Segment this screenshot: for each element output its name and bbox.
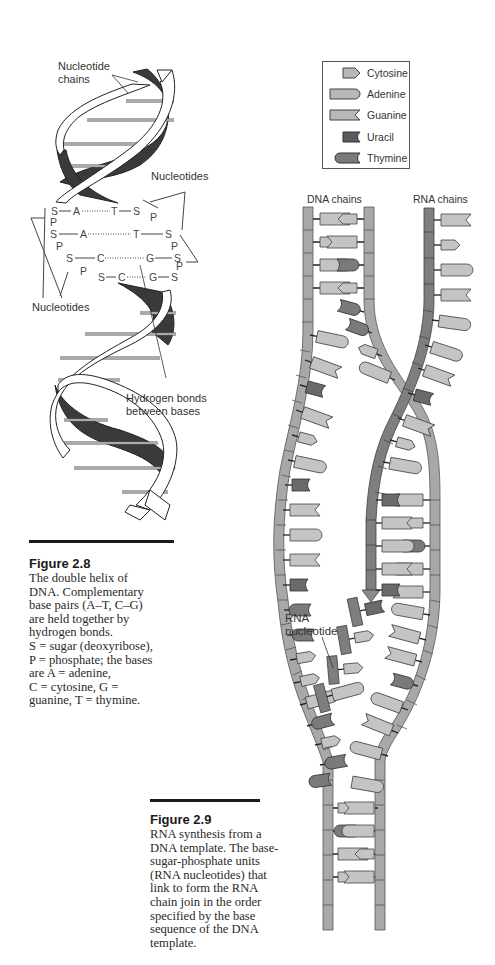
svg-text:S: S — [171, 271, 178, 283]
legend-item-guanine: Guanine — [323, 107, 409, 125]
svg-text:S: S — [165, 228, 172, 240]
rna-dna-hybrid — [376, 494, 414, 596]
uracil-icon — [323, 130, 363, 144]
label-nucleotides-left: Nucleotides — [32, 301, 89, 314]
svg-text:A: A — [73, 205, 80, 217]
left-strand-bases — [283, 329, 349, 771]
caption-rule-2-8 — [29, 540, 174, 543]
svg-text:P: P — [176, 260, 183, 272]
guanine-icon — [323, 108, 363, 122]
label-nucleotides-top: Nucleotides — [151, 170, 208, 183]
legend-item-thymine: Thymine — [323, 150, 409, 168]
dna-left-backbone — [274, 207, 333, 930]
legend-item-adenine: Adenine — [323, 86, 409, 104]
svg-text:P: P — [80, 265, 87, 277]
svg-text:C: C — [118, 271, 126, 283]
svg-text:G: G — [146, 252, 154, 264]
legend-item-uracil: Uracil — [323, 129, 409, 147]
svg-text:P: P — [56, 240, 63, 252]
svg-text:P: P — [50, 216, 57, 228]
svg-text:A: A — [80, 228, 87, 240]
svg-text:S: S — [66, 252, 73, 264]
adenine-icon — [323, 87, 363, 101]
dna-pairs-bottom — [333, 808, 378, 877]
label-nucleotide-chains: Nucleotide chains — [58, 60, 110, 86]
legend-item-cytosine: Cytosine — [323, 65, 409, 83]
svg-text:C: C — [97, 252, 105, 264]
dna-bases-bottom — [308, 773, 384, 883]
dna-pairs-top — [313, 219, 364, 288]
svg-text:S: S — [133, 205, 140, 217]
figure-2-8-diagram: SATSP P SATS PP SCGS PSCGSP — [0, 0, 250, 530]
svg-text:G: G — [149, 271, 157, 283]
double-helix-illustration: SATSP P SATS PP SCGS PSCGSP — [0, 0, 250, 530]
label-hydrogen-bonds: Hydrogen bonds between bases — [126, 392, 207, 418]
svg-text:P: P — [150, 211, 157, 223]
cytosine-icon — [323, 66, 363, 80]
svg-text:S: S — [50, 228, 57, 240]
figure-2-9-title: Figure 2.9 — [150, 812, 211, 827]
svg-text:T: T — [133, 228, 140, 240]
label-rna-nucleotide: RNA nucleotide — [285, 612, 337, 638]
svg-text:T: T — [111, 205, 118, 217]
svg-text:P: P — [171, 240, 178, 252]
thymine-icon — [323, 151, 363, 165]
svg-text:S: S — [98, 271, 105, 283]
figure-2-9-caption: RNA synthesis from a DNA template. The b… — [150, 828, 280, 950]
dna-bases-top — [320, 213, 359, 294]
caption-rule-2-9 — [150, 799, 260, 802]
base-pair-schematic: SATSP P SATS PP SCGS PSCGSP — [31, 192, 198, 298]
figure-2-8-caption: The double helix of DNA. Complementary b… — [29, 572, 199, 708]
figure-2-8-title: Figure 2.8 — [29, 556, 90, 571]
base-legend: Cytosine Adenine Guanine Uracil Thymine — [322, 61, 410, 169]
